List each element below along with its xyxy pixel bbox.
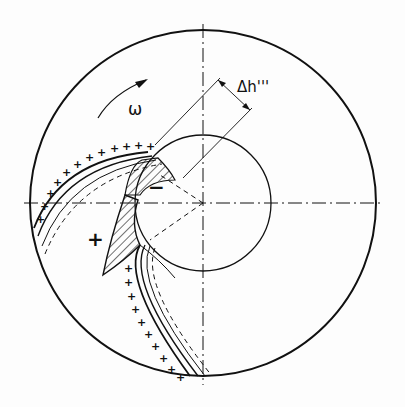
- svg-text:+: +: [124, 262, 133, 275]
- svg-text:+: +: [124, 276, 133, 289]
- svg-text:+: +: [134, 139, 143, 152]
- omega-label: ω: [128, 99, 142, 119]
- svg-text:+: +: [62, 166, 71, 179]
- rotation-arrowhead-icon: [135, 79, 148, 88]
- radial-dashed-lower: [150, 203, 203, 240]
- svg-text:+: +: [40, 200, 49, 213]
- svg-text:+: +: [36, 213, 45, 226]
- svg-text:+: +: [167, 363, 176, 376]
- lower-arc: [140, 245, 175, 278]
- svg-text:+: +: [73, 158, 82, 171]
- plus-region-label: +: [87, 227, 104, 251]
- delta-h-label: Δh''': [237, 78, 269, 96]
- svg-text:+: +: [46, 187, 55, 200]
- svg-text:+: +: [85, 151, 94, 164]
- minus-region-label: −: [148, 175, 165, 199]
- svg-text:+: +: [176, 371, 185, 384]
- svg-text:+: +: [146, 140, 155, 153]
- diagram-canvas: +++ +++ +++ +++ +++ +++ +++ + ω Δh''' + …: [0, 0, 405, 407]
- svg-text:+: +: [127, 290, 136, 303]
- svg-text:+: +: [131, 303, 140, 316]
- svg-text:+: +: [110, 142, 119, 155]
- hatched-region-plus: [103, 195, 140, 275]
- dimension-extension-2: [183, 108, 252, 178]
- impeller-diagram: +++ +++ +++ +++ +++ +++ +++ + ω Δh''' + …: [0, 0, 405, 407]
- svg-text:+: +: [97, 146, 106, 159]
- svg-text:+: +: [122, 140, 131, 153]
